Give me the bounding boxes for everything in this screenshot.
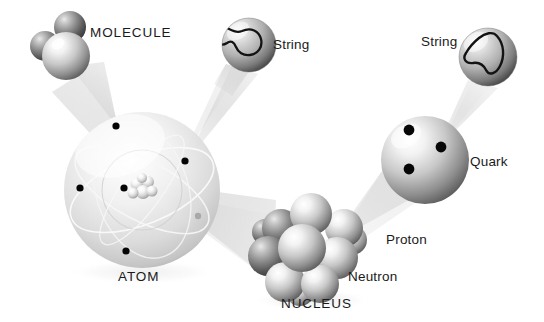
molecule-atom — [42, 32, 90, 80]
label-neutron: Neutron — [348, 269, 397, 284]
label-string-quark: String — [421, 34, 457, 49]
label-quark: Quark — [470, 154, 508, 169]
electron — [120, 184, 127, 191]
physics-scale-diagram: MOLECULE String String Quark Proton Neut… — [0, 0, 544, 322]
electron — [112, 122, 119, 129]
electron — [195, 213, 201, 219]
proton-object — [381, 116, 469, 204]
electron — [181, 157, 188, 164]
molecule-object — [30, 11, 90, 80]
string-bubble-2 — [459, 28, 517, 86]
quark — [404, 125, 415, 136]
proton-sphere — [381, 116, 469, 204]
label-molecule: MOLECULE — [90, 25, 171, 40]
electron — [76, 184, 83, 191]
diagram-canvas — [0, 0, 544, 322]
quark — [436, 142, 447, 153]
label-atom: ATOM — [118, 269, 159, 284]
string-bubble-1 — [215, 18, 276, 72]
electron — [122, 247, 129, 254]
nucleon — [278, 224, 326, 272]
label-string-electron: String — [273, 37, 309, 52]
label-nucleus: NUCLEUS — [281, 296, 352, 311]
quark — [404, 164, 415, 175]
label-proton: Proton — [386, 232, 427, 247]
